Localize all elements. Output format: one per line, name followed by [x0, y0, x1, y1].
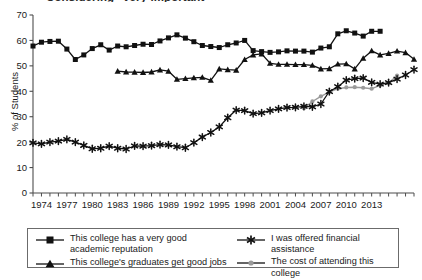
x-axis-tick: 2010: [336, 199, 357, 210]
square-marker-icon: [35, 234, 65, 246]
legend-column-right: I was offered financial assistance The c…: [236, 233, 400, 280]
x-axis-tick: 1995: [209, 199, 230, 210]
legend-item-good-jobs[interactable]: This college's graduates get good jobs: [35, 257, 231, 270]
legend-column-left: This college has a very good academic re…: [35, 233, 231, 271]
y-axis-label: % of Students: [9, 62, 20, 142]
series-triangle: [115, 48, 418, 83]
x-axis-tick: 2001: [259, 199, 280, 210]
x-axis-tick: 1989: [158, 199, 179, 210]
x-axis-tick: 1986: [132, 199, 153, 210]
legend-item-cost-of-attending[interactable]: The cost of attending this college: [236, 256, 400, 278]
y-axis-tick: 60: [16, 35, 27, 46]
x-axis-tick: 1974: [31, 199, 52, 210]
legend-label-academic-reputation: This college has a very good academic re…: [70, 233, 187, 255]
legend-label-financial-assistance: I was offered financial assistance: [271, 233, 400, 255]
legend-item-academic-reputation[interactable]: This college has a very good academic re…: [35, 233, 231, 255]
chart-legend: This college has a very good academic re…: [27, 228, 399, 268]
x-axis-tick: 1977: [56, 199, 77, 210]
x-axis-tick: 2007: [310, 199, 331, 210]
series-square: [31, 28, 383, 62]
x-axis-tick: 2013: [361, 199, 382, 210]
legend-label-cost-of-attending: The cost of attending this college: [271, 256, 400, 278]
y-axis-tick: 10: [16, 162, 27, 173]
y-axis-tick: 70: [16, 9, 27, 20]
y-axis-tick: 0: [22, 187, 27, 198]
circle-marker-icon: [236, 257, 266, 269]
legend-label-good-jobs: This college's graduates get good jobs: [70, 257, 227, 268]
series-asterisk: [30, 66, 417, 152]
x-axis-tick: 2004: [285, 199, 306, 210]
chart-plot-area: 0102030405060701974197719801983198619891…: [0, 0, 422, 215]
triangle-marker-icon: [35, 258, 65, 270]
x-axis-tick: 1983: [107, 199, 128, 210]
asterisk-marker-icon: [236, 234, 266, 246]
legend-item-financial-assistance[interactable]: I was offered financial assistance: [236, 233, 400, 255]
x-axis-tick: 1980: [82, 199, 103, 210]
x-axis-tick: 1992: [183, 199, 204, 210]
line-chart-svg: 0102030405060701974197719801983198619891…: [0, 0, 422, 215]
x-axis-tick: 1998: [234, 199, 255, 210]
